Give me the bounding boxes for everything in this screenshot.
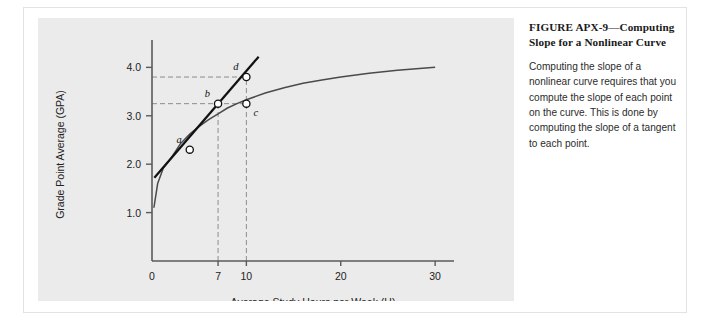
y-axis-title: Grade Point Average (GPA) xyxy=(54,90,66,219)
y-tick-label: 3.0 xyxy=(126,110,141,122)
guide-lines xyxy=(152,77,246,261)
figure-caption-title: FIGURE APX-9—Computing Slope for a Nonli… xyxy=(529,20,677,50)
y-tick-label: 1.0 xyxy=(126,207,141,219)
data-point-c xyxy=(243,100,250,107)
data-point-a xyxy=(186,146,193,153)
y-axis-ticks xyxy=(146,67,152,212)
data-point-d xyxy=(243,73,250,80)
figure-container: 1.02.03.04.0 07102030 abcd Average Study… xyxy=(23,7,687,313)
x-tick-label: 20 xyxy=(335,270,347,282)
figure-caption: FIGURE APX-9—Computing Slope for a Nonli… xyxy=(529,20,677,151)
x-tick-label: 7 xyxy=(215,270,221,282)
nonlinear-curve xyxy=(154,67,435,207)
x-tick-label: 30 xyxy=(429,270,441,282)
chart-panel: 1.02.03.04.0 07102030 abcd Average Study… xyxy=(38,18,514,301)
x-tick-label: 0 xyxy=(149,270,155,282)
data-point-b xyxy=(214,100,221,107)
figure-caption-body: Computing the slope of a nonlinear curve… xyxy=(529,59,677,151)
x-tick-label: 10 xyxy=(241,270,253,282)
x-axis-title: Average Study Hours per Week (H) xyxy=(231,296,396,301)
data-point-label-d: d xyxy=(233,61,239,72)
y-tick-label: 4.0 xyxy=(126,61,141,73)
x-axis-tick-labels: 07102030 xyxy=(149,270,441,282)
y-axis-tick-labels: 1.02.03.04.0 xyxy=(126,61,141,218)
data-point-label-b: b xyxy=(205,88,210,99)
data-point-label-a: a xyxy=(177,134,182,145)
nonlinear-slope-chart: 1.02.03.04.0 07102030 abcd Average Study… xyxy=(38,18,514,301)
data-point-label-c: c xyxy=(253,107,258,118)
y-tick-label: 2.0 xyxy=(126,158,141,170)
